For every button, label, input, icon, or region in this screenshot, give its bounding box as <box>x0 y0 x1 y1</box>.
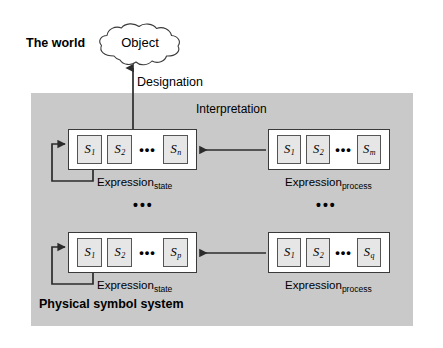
symbol-ellipsis: ••• <box>335 246 352 259</box>
symbol-cell: Sn <box>163 135 188 164</box>
symbol-ellipsis: ••• <box>335 143 352 156</box>
symbol-cell: Sm <box>357 135 381 164</box>
physical-symbol-system-diagram: The world Object Designation Interpretat… <box>0 0 443 348</box>
symbol-ellipsis: ••• <box>137 246 158 259</box>
expression-state-box-row1: S1 S2 ••• Sn <box>68 129 197 170</box>
expression-state-caption-row2: Expressionstate <box>97 280 172 292</box>
symbol-cell: S2 <box>306 238 330 267</box>
symbol-cell: Sp <box>163 238 188 267</box>
interpretation-label: Interpretation <box>196 103 267 115</box>
expression-state-caption-row1: Expressionstate <box>97 177 172 189</box>
symbol-cell: S1 <box>77 238 102 267</box>
expression-process-caption-row2: Expressionprocess <box>285 280 372 292</box>
symbol-cell: Sq <box>357 238 381 267</box>
row-ellipsis-right: ••• <box>316 198 337 212</box>
symbol-ellipsis: ••• <box>137 143 158 156</box>
expression-state-box-row2: S1 S2 ••• Sp <box>68 232 197 273</box>
symbol-cell: S1 <box>277 238 301 267</box>
symbol-cell: S2 <box>306 135 330 164</box>
symbol-cell: S2 <box>107 238 132 267</box>
symbol-cell: S2 <box>107 135 132 164</box>
the-world-label: The world <box>26 37 85 50</box>
expression-process-box-row2: S1 S2 ••• Sq <box>268 232 390 273</box>
expression-process-box-row1: S1 S2 ••• Sm <box>268 129 390 170</box>
object-label: Object <box>96 36 184 49</box>
expression-process-caption-row1: Expressionprocess <box>285 177 372 189</box>
physical-symbol-system-label: Physical symbol system <box>39 298 184 311</box>
designation-label: Designation <box>137 76 203 89</box>
symbol-cell: S1 <box>77 135 102 164</box>
row-ellipsis-left: ••• <box>133 198 154 212</box>
object-cloud: Object <box>96 22 184 68</box>
symbol-cell: S1 <box>277 135 301 164</box>
